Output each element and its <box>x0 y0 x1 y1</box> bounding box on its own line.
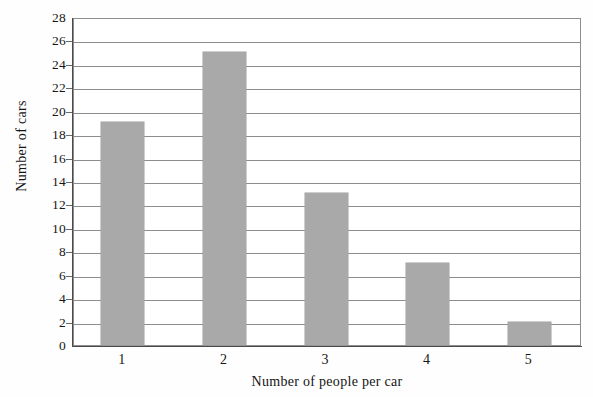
y-axis-tick-label: 6 <box>26 269 66 283</box>
y-axis-title: Number of cars <box>14 76 30 216</box>
y-axis-tick-label: 26 <box>26 34 66 48</box>
bar-chart: 0246810121416182022242628 12345 Number o… <box>0 0 593 397</box>
y-axis-tick-label: 14 <box>26 175 66 189</box>
y-axis-tick-mark <box>66 135 72 136</box>
y-axis-tick-mark <box>66 323 72 324</box>
x-axis-title: Number of people per car <box>73 374 581 390</box>
y-axis-tick-mark <box>66 205 72 206</box>
y-axis-tick-label: 24 <box>26 58 66 72</box>
x-axis-tick-label: 1 <box>92 352 152 368</box>
y-axis-tick-label: 18 <box>26 128 66 142</box>
gridline <box>74 160 580 161</box>
y-axis-tick-label: 4 <box>26 292 66 306</box>
bar <box>101 122 144 345</box>
y-axis-tick-label: 8 <box>26 245 66 259</box>
y-axis-tick-label: 16 <box>26 152 66 166</box>
y-axis-tick-mark <box>66 65 72 66</box>
y-axis-tick-mark <box>66 182 72 183</box>
bar <box>406 263 449 345</box>
y-axis-tick-mark <box>66 252 72 253</box>
y-axis-tick-label: 28 <box>26 11 66 25</box>
x-axis-tick-label: 5 <box>498 352 558 368</box>
x-axis-tick-label: 4 <box>397 352 457 368</box>
y-axis-tick-mark <box>66 112 72 113</box>
gridline <box>74 183 580 184</box>
y-axis-tick-mark <box>66 159 72 160</box>
bar <box>305 193 348 345</box>
y-axis-tick-mark <box>66 276 72 277</box>
y-axis-tick-label: 20 <box>26 105 66 119</box>
gridline <box>74 113 580 114</box>
y-axis-tick-label: 12 <box>26 198 66 212</box>
y-axis-tick-label: 10 <box>26 222 66 236</box>
gridline <box>74 89 580 90</box>
y-axis-line <box>72 18 73 347</box>
gridline <box>74 136 580 137</box>
x-axis-tick-label: 3 <box>295 352 355 368</box>
x-axis-tick-label: 2 <box>193 352 253 368</box>
y-axis-tick-mark <box>66 41 72 42</box>
y-axis-tick-mark <box>66 299 72 300</box>
gridline <box>74 66 580 67</box>
plot-area <box>73 18 581 346</box>
x-axis-line <box>72 346 582 347</box>
bar <box>508 322 551 345</box>
y-axis-tick-label: 22 <box>26 81 66 95</box>
bar <box>203 52 246 345</box>
y-axis-tick-mark <box>66 229 72 230</box>
y-axis-tick-label: 2 <box>26 316 66 330</box>
gridline <box>74 42 580 43</box>
y-axis-tick-label: 0 <box>26 339 66 353</box>
y-axis-tick-mark <box>66 88 72 89</box>
